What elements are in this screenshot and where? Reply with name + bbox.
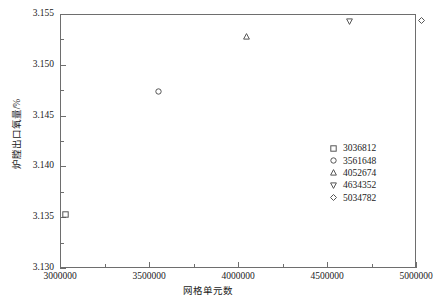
x-tick-label: 4500000: [292, 272, 362, 282]
x-tick-major: [149, 262, 150, 268]
plot-area: [60, 14, 416, 268]
x-tick-label: 3000000: [25, 272, 95, 282]
x-tick-minor: [194, 264, 195, 268]
circle-marker-icon: [326, 155, 340, 167]
y-tick-label: 3.145: [8, 111, 54, 121]
diamond-marker-icon: [326, 192, 340, 204]
legend-item-3561648[interactable]: 3561648: [326, 154, 412, 166]
y-axis-title: 炉膛出口氧量/%: [12, 79, 22, 189]
y-tick-label: 3.135: [8, 212, 54, 222]
y-tick-minor: [60, 192, 64, 193]
x-tick-label: 4000000: [203, 272, 273, 282]
y-tick-major: [60, 268, 66, 269]
triangle-up-marker-icon: [326, 167, 340, 179]
legend-label: 4634352: [343, 180, 376, 190]
x-tick-major: [416, 262, 417, 268]
x-axis-title: 网格单元数: [0, 286, 425, 296]
y-tick-minor: [60, 243, 64, 244]
x-tick-minor: [105, 264, 106, 268]
legend-item-4634352[interactable]: 4634352: [326, 179, 412, 191]
x-tick-label: 3500000: [114, 272, 184, 282]
data-point-3036812: [62, 211, 71, 220]
legend-label: 4052674: [343, 168, 376, 178]
x-axis-title-text: 网格单元数: [183, 286, 233, 296]
data-point-5034782: [418, 17, 427, 26]
triangle-down-marker-icon: [326, 179, 340, 191]
data-point-4634352: [346, 18, 355, 27]
x-tick-label: 5000000: [381, 272, 438, 282]
y-tick-major: [60, 116, 66, 117]
x-tick-minor: [283, 264, 284, 268]
x-tick-major: [60, 262, 61, 268]
x-tick-major: [238, 262, 239, 268]
legend-item-3036812[interactable]: 3036812: [326, 142, 412, 154]
y-tick-major: [60, 65, 66, 66]
y-tick-major: [60, 14, 66, 15]
y-tick-minor: [60, 39, 64, 40]
data-point-3561648: [155, 88, 164, 97]
legend-label: 3036812: [343, 143, 376, 153]
legend: 30368123561648405267446343525034782: [326, 142, 412, 204]
y-tick-label: 3.155: [8, 9, 54, 19]
legend-item-4052674[interactable]: 4052674: [326, 167, 412, 179]
y-tick-label: 3.140: [8, 161, 54, 171]
y-tick-label: 3.150: [8, 60, 54, 70]
x-tick-minor: [372, 264, 373, 268]
legend-label: 5034782: [343, 193, 376, 203]
legend-label: 3561648: [343, 156, 376, 166]
data-point-4052674: [243, 33, 252, 42]
y-tick-minor: [60, 141, 64, 142]
x-tick-major: [327, 262, 328, 268]
square-marker-icon: [326, 142, 340, 154]
legend-item-5034782[interactable]: 5034782: [326, 192, 412, 204]
y-tick-minor: [60, 90, 64, 91]
y-tick-major: [60, 166, 66, 167]
